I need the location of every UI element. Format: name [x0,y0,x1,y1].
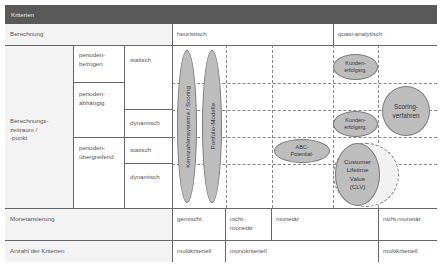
divider [172,24,173,262]
monetarisierung-value: nicht- monetär [230,215,253,232]
kundenerfolgsrechnung-oval: Kunden- erfolgsrg. [333,54,378,80]
period-label: perioden- bezogen [79,51,105,68]
monetarisierung-value: nicht-monetär [383,215,421,224]
mode-label: dynamisch [130,119,160,128]
anzahl-label: Anzahl der Kriterien [10,247,64,256]
header-bar: Kriterien [5,5,437,24]
divider [5,208,437,209]
divider [378,208,379,262]
divider [124,45,125,208]
clv-oval: Customer Lifetime Value (CLV) [335,143,380,206]
quasi-analytic-label: quasi-analytisch [338,30,382,39]
divider [124,163,172,164]
heuristic-label: heuristisch [177,30,207,39]
divider [225,240,226,262]
divider [73,82,124,83]
kennzahlen-label: Kennzahlensysteme / Scoring [184,86,191,168]
period-label: perioden- übergreifend [79,144,114,161]
monetarisierung-value: gemischt [177,215,202,224]
divider [333,24,334,45]
anzahl-value: multikriteriell [177,247,211,256]
kennzahlen-oval: Kennzahlensysteme / Scoring [177,50,197,203]
mode-label: dynamisch [130,173,160,182]
kundenerfolgsrechnung-oval: Kunden- erfolgsrg. [333,111,378,137]
mode-label: statisch [130,146,151,155]
scoring-verfahren-oval: Scoring- verfahren [382,86,430,136]
divider [271,208,272,240]
dashed-gridline [226,45,227,208]
dashed-gridline [272,45,273,208]
anzahl-value: monokriteriell [230,247,267,256]
divider [73,137,172,138]
portfolio-label: Portfolio-Modelle [209,103,216,149]
divider [124,109,172,110]
divider [73,45,74,208]
anzahl-value: multikriteriell [383,247,417,256]
berechnung-label: Berechnung [10,30,43,39]
period-label: perioden- abhängig [79,90,105,107]
abc-potential-oval: ABC- Potential- [274,139,330,163]
monetarisierung-value: monetär [276,215,299,224]
header-title: Kriterien [11,11,34,18]
divider [5,45,437,46]
zeitraum-label: Berechnungs- zeitraum / -punkt [10,117,49,143]
divider [5,240,437,241]
mode-label: statisch [130,56,151,65]
monetarisierung-label: Monetarisierung [10,215,54,224]
portfolio-oval: Portfolio-Modelle [202,50,222,203]
divider [225,208,226,240]
